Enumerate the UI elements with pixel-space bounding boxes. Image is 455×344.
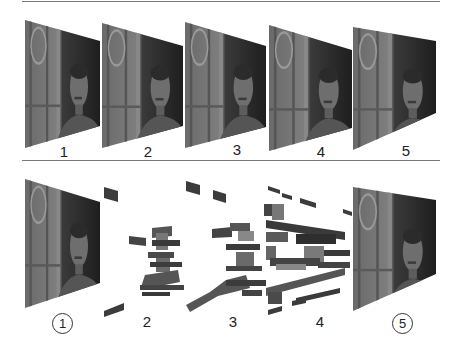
bottom-frame-label-1-circled: 1 (52, 313, 73, 334)
bottom-frame-label-3: 3 (221, 314, 245, 330)
top-frame-3 (185, 22, 266, 148)
top-frame-5 (353, 27, 436, 150)
top-frame-1 (25, 20, 100, 148)
bottom-frame-5 (353, 187, 436, 311)
bottom-frame-label-2: 2 (135, 314, 159, 330)
frames-illustration (0, 0, 455, 344)
bottom-frame-label-4: 4 (308, 314, 332, 330)
top-frame-label-4: 4 (309, 144, 333, 160)
bottom-frame-4-fragments (264, 186, 352, 315)
top-frame-label-5: 5 (394, 143, 418, 159)
bottom-frame-label-5-circled: 5 (392, 313, 413, 334)
bottom-frame-1 (25, 179, 100, 308)
bottom-frame-2-fragments (104, 187, 184, 317)
top-frame-2 (102, 23, 183, 148)
top-frame-label-1: 1 (52, 144, 76, 160)
bottom-frame-3-fragments (186, 181, 266, 312)
top-frame-label-3: 3 (225, 142, 249, 158)
top-frame-4 (269, 25, 352, 151)
top-frame-label-2: 2 (136, 144, 160, 160)
